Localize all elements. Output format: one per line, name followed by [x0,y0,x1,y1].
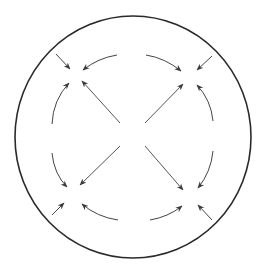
arc-top-right [146,55,181,71]
arc-right-upper [197,85,213,121]
arc-left-upper [52,83,69,124]
flow-diagram [0,0,265,273]
outer-boundary-circle [15,16,251,258]
inward-arrow-top-left [56,54,70,69]
inward-arrow-bottom-right [198,205,212,220]
radial-arrow-top-right [145,84,183,123]
inward-arrow-bottom-left [52,203,64,215]
outer-inward-arrows [52,54,212,220]
arc-top-left [83,55,117,70]
curved-arrows [52,55,213,220]
radial-arrows [80,81,183,190]
arc-bottom-right [150,206,182,220]
radial-arrow-bottom-left [80,146,120,185]
inward-arrow-top-right [197,56,212,70]
radial-arrow-bottom-right [145,146,183,190]
radial-arrow-top-left [82,81,120,123]
arc-bottom-left [82,204,118,220]
arc-right-lower [198,151,213,188]
arc-left-lower [52,153,67,187]
